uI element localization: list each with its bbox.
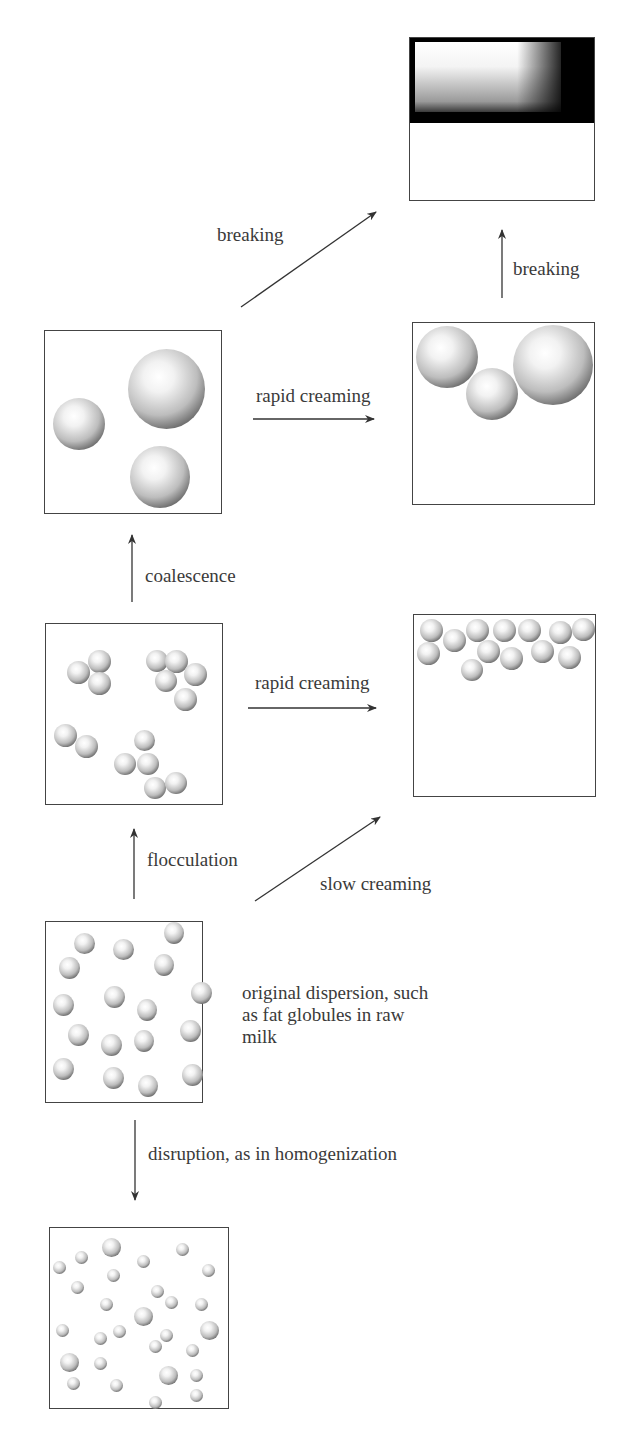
- droplet: [75, 735, 98, 758]
- flocculated-box: [45, 623, 223, 805]
- droplet: [151, 1285, 164, 1298]
- droplet: [53, 1058, 74, 1080]
- droplet: [165, 772, 187, 794]
- droplet: [184, 663, 207, 686]
- droplet: [200, 1321, 219, 1340]
- droplet: [513, 325, 593, 405]
- breaking-vertical-label: breaking: [513, 258, 579, 280]
- droplet: [531, 640, 554, 663]
- droplet: [518, 619, 541, 642]
- droplet: [110, 1379, 123, 1392]
- droplet: [60, 1353, 79, 1372]
- droplet: [113, 939, 134, 960]
- droplet: [154, 954, 174, 976]
- droplet: [53, 994, 74, 1016]
- droplet: [68, 1024, 89, 1046]
- droplet: [500, 647, 523, 670]
- droplet: [88, 672, 111, 695]
- disruption-label: disruption, as in homogenization: [148, 1143, 397, 1165]
- droplet: [59, 957, 80, 979]
- droplet: [461, 659, 483, 681]
- droplet: [128, 349, 205, 429]
- droplet: [102, 1238, 121, 1257]
- creamed-small-box: [413, 614, 596, 797]
- droplet: [130, 446, 190, 508]
- droplet: [190, 1369, 203, 1382]
- droplet: [134, 1307, 153, 1326]
- droplet: [420, 619, 443, 642]
- droplet: [466, 368, 518, 420]
- droplet: [202, 1264, 215, 1277]
- droplet: [53, 1261, 66, 1274]
- flocculation-label: flocculation: [147, 849, 238, 871]
- droplet: [53, 398, 105, 450]
- droplet: [190, 1389, 203, 1402]
- droplet: [159, 1366, 178, 1385]
- droplet: [94, 1332, 107, 1345]
- droplet: [182, 1064, 203, 1086]
- droplet: [137, 1255, 150, 1268]
- droplet: [113, 1325, 126, 1338]
- droplet: [104, 986, 125, 1008]
- droplet: [54, 724, 77, 747]
- droplet: [74, 933, 95, 954]
- droplet: [101, 1034, 122, 1056]
- oil-layer-gradient: [415, 42, 561, 112]
- droplet: [174, 688, 197, 711]
- droplet: [114, 753, 136, 775]
- original-dispersion-box: [45, 921, 203, 1103]
- droplet: [67, 661, 90, 684]
- slow-creaming-label: slow creaming: [320, 873, 431, 895]
- droplet: [549, 621, 572, 644]
- droplet: [191, 982, 212, 1004]
- broken-emulsion-box: [409, 37, 595, 201]
- droplet: [477, 640, 500, 663]
- droplet: [155, 670, 177, 692]
- droplet: [164, 922, 184, 944]
- droplet: [100, 1298, 113, 1311]
- droplet: [134, 730, 155, 751]
- droplet: [176, 1243, 189, 1256]
- droplet: [134, 1030, 154, 1052]
- droplet: [558, 646, 581, 669]
- droplet: [149, 1396, 162, 1409]
- droplet: [443, 629, 466, 652]
- droplet: [160, 1329, 173, 1342]
- droplet: [417, 642, 440, 665]
- rapid-creaming-top-label: rapid creaming: [256, 385, 370, 407]
- droplet: [94, 1357, 107, 1370]
- breaking-diagonal-label: breaking: [217, 224, 283, 246]
- original-dispersion-caption: original dispersion, such as fat globule…: [242, 982, 442, 1048]
- droplet: [165, 1296, 178, 1309]
- coalesced-box: [44, 330, 222, 514]
- droplet: [103, 1067, 124, 1089]
- droplet: [466, 619, 489, 642]
- droplet: [493, 619, 516, 642]
- rapid-creaming-mid-label: rapid creaming: [255, 672, 369, 694]
- droplet: [195, 1298, 208, 1311]
- droplet: [144, 777, 166, 799]
- droplet: [180, 1020, 201, 1042]
- creamed-large-box: [412, 322, 595, 505]
- droplet: [149, 1340, 162, 1353]
- droplet: [137, 999, 157, 1021]
- homogenized-box: [49, 1227, 229, 1409]
- droplet: [572, 618, 595, 641]
- droplet: [67, 1377, 80, 1390]
- droplet: [186, 1344, 199, 1357]
- droplet: [75, 1251, 88, 1264]
- coalescence-label: coalescence: [145, 565, 236, 587]
- droplet: [88, 650, 111, 673]
- droplet: [56, 1324, 69, 1337]
- droplet: [71, 1281, 84, 1294]
- droplet: [107, 1269, 120, 1282]
- droplet: [416, 326, 478, 388]
- droplet: [137, 753, 159, 775]
- droplet: [138, 1075, 158, 1097]
